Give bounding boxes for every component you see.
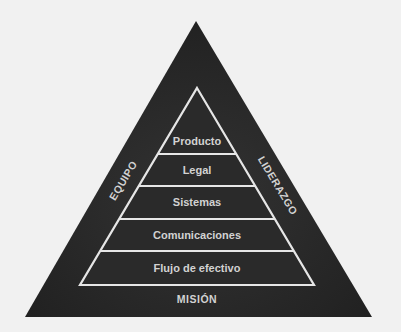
level-legal: Legal <box>183 164 212 176</box>
base-label-mision: MISIÓN <box>177 293 217 305</box>
pyramid-svg: Producto Legal Sistemas Comunicaciones F… <box>0 0 401 332</box>
level-comunicaciones: Comunicaciones <box>153 229 241 241</box>
level-flujo-de-efectivo: Flujo de efectivo <box>154 262 241 274</box>
level-sistemas: Sistemas <box>173 196 221 208</box>
pyramid-diagram: Producto Legal Sistemas Comunicaciones F… <box>0 0 401 332</box>
level-producto: Producto <box>173 135 222 147</box>
